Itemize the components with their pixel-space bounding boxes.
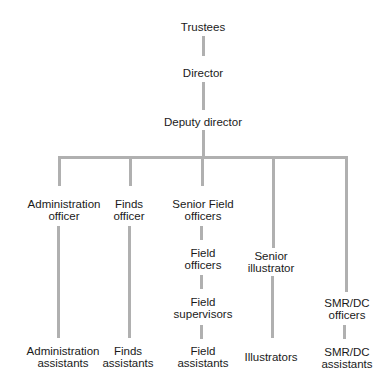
- node-label: assistants: [321, 358, 372, 370]
- edge-trustees-director: [202, 36, 205, 56]
- node-administration-officer: Administrationofficer: [28, 198, 101, 222]
- node-label: Administration: [27, 345, 100, 357]
- node-director: Director: [183, 67, 223, 79]
- node-label: Finds: [113, 198, 144, 210]
- edge-director-deputy: [202, 82, 205, 110]
- node-label: illustrator: [248, 262, 295, 274]
- node-label: Finds: [102, 345, 153, 357]
- node-label: Field: [174, 296, 233, 308]
- edge-bus-smr: [345, 156, 348, 292]
- edge-supervisors-assistants: [200, 325, 203, 339]
- edge-deputy-bus: [202, 130, 205, 158]
- node-label: officers: [172, 210, 233, 222]
- node-label: Illustrators: [244, 351, 297, 363]
- node-label: supervisors: [174, 308, 233, 320]
- edge-field-supervisors: [200, 275, 203, 289]
- node-finds-officer: Findsofficer: [113, 198, 144, 222]
- edge-smr-assistants: [343, 325, 346, 339]
- node-label: Senior Field: [172, 198, 233, 210]
- edge-finds-assistants: [128, 226, 131, 338]
- node-smr-assistants: SMR/DCassistants: [321, 346, 372, 370]
- node-administration-assistants: Administrationassistants: [27, 345, 100, 369]
- node-label: Director: [183, 67, 223, 79]
- node-label: Administration: [28, 198, 101, 210]
- node-label: officers: [324, 309, 369, 321]
- node-senior-illustrator: Seniorillustrator: [248, 250, 295, 274]
- edge-bus-admin: [58, 156, 61, 186]
- edge-bus-senior-illustrator: [272, 156, 275, 248]
- node-field-assistants: Fieldassistants: [177, 345, 228, 369]
- node-trustees: Trustees: [181, 21, 225, 33]
- node-label: SMR/DC: [324, 297, 369, 309]
- node-field-supervisors: Fieldsupervisors: [174, 296, 233, 320]
- edge-bus-finds: [129, 156, 132, 186]
- node-label: officer: [28, 210, 101, 222]
- node-finds-assistants: Findsassistants: [102, 345, 153, 369]
- node-label: assistants: [102, 357, 153, 369]
- node-smr-officers: SMR/DCofficers: [324, 297, 369, 321]
- node-label: officer: [113, 210, 144, 222]
- edge-bus-senior-field: [201, 156, 204, 186]
- node-field-officers: Fieldofficers: [185, 247, 222, 271]
- node-deputy-director: Deputy director: [164, 116, 242, 128]
- node-label: officers: [185, 259, 222, 271]
- node-label: SMR/DC: [321, 346, 372, 358]
- node-label: assistants: [177, 357, 228, 369]
- node-illustrators: Illustrators: [244, 351, 297, 363]
- node-label: Field: [177, 345, 228, 357]
- edge-senior-field-field: [200, 226, 203, 240]
- node-label: Deputy director: [164, 116, 242, 128]
- edge-admin-assistants: [57, 226, 60, 338]
- node-label: Trustees: [181, 21, 225, 33]
- node-label: Field: [185, 247, 222, 259]
- node-label: Senior: [248, 250, 295, 262]
- edge-illustrator-illustrators: [271, 276, 274, 338]
- node-label: assistants: [27, 357, 100, 369]
- node-senior-field-officers: Senior Fieldofficers: [172, 198, 233, 222]
